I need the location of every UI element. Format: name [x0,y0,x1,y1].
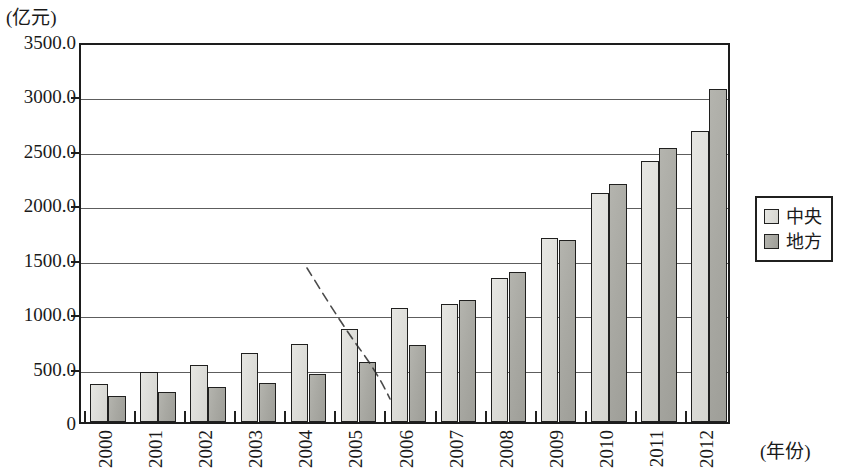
y-tick-label: 1000.0 [24,304,76,326]
legend: 中央 地方 [755,196,833,262]
x-axis-title: (年份) [760,436,811,463]
legend-item-local: 地方 [764,229,822,254]
bar-2001-local [158,392,176,422]
bar-2009-central [541,238,559,422]
x-tick-mark [334,411,336,422]
bar-2006-local [409,345,427,422]
x-tick-label-2009: 2009 [546,430,568,468]
x-tick-label-2004: 2004 [295,430,317,468]
bar-2009-local [559,240,577,422]
x-tick-mark [284,411,286,422]
x-tick-label-2000: 2000 [95,430,117,468]
bar-2011-local [659,148,677,422]
x-tick-mark [384,411,386,422]
y-tick-label: 3500.0 [24,32,76,54]
x-tick-label-2003: 2003 [245,430,267,468]
legend-swatch-local-icon [764,234,779,249]
legend-swatch-central-icon [764,209,779,224]
x-tick-mark [635,411,637,422]
x-tick-label-2001: 2001 [145,430,167,468]
bar-2003-local [259,383,277,422]
legend-label-local: 地方 [786,233,822,251]
bar-chart: (亿元) 0500.01000.01500.02000.02500.03000.… [0,0,845,476]
x-tick-mark [84,411,86,422]
bars-layer [81,45,728,422]
x-tick-label-2008: 2008 [496,430,518,468]
x-tick-label-2011: 2011 [646,430,668,467]
x-tick-mark [685,411,687,422]
bar-2001-central [140,372,158,422]
bar-2007-central [441,304,459,422]
x-tick-mark [485,411,487,422]
bar-2008-central [491,278,509,422]
x-tick-mark [585,411,587,422]
bar-2008-local [509,272,527,422]
y-axis-unit-label: (亿元) [6,2,57,29]
x-tick-mark [184,411,186,422]
bar-2005-local [359,362,377,422]
bar-2011-central [641,161,659,422]
bar-2004-central [291,344,309,422]
y-tick-label: 2500.0 [24,141,76,163]
y-tick-label: 1500.0 [24,250,76,272]
x-tick-mark [435,411,437,422]
x-tick-label-2010: 2010 [596,430,618,468]
bar-2002-local [208,387,226,422]
x-tick-mark [535,411,537,422]
bar-2003-central [241,353,259,422]
bar-2010-central [591,193,609,422]
bar-2005-central [341,329,359,422]
x-tick-mark [134,411,136,422]
bar-2010-local [609,184,627,422]
x-tick-label-2002: 2002 [195,430,217,468]
x-tick-label-2012: 2012 [696,430,718,468]
bar-2007-local [459,300,477,422]
bar-2000-local [108,396,126,422]
bar-2002-central [190,365,208,422]
bar-2012-central [691,131,709,422]
x-tick-label-2006: 2006 [396,430,418,468]
x-tick-mark [728,411,730,422]
bar-2004-local [309,374,327,422]
bar-2000-central [90,384,108,422]
x-tick-label-2007: 2007 [446,430,468,468]
y-tick-label: 500.0 [33,359,76,381]
legend-label-central: 中央 [786,208,822,226]
bar-2012-local [709,89,727,422]
y-tick-label: 0 [67,413,77,435]
y-tick-label: 2000.0 [24,195,76,217]
x-tick-label-2005: 2005 [345,430,367,468]
bar-2006-central [391,308,409,422]
y-tick-label: 3000.0 [24,86,76,108]
x-tick-mark [234,411,236,422]
legend-item-central: 中央 [764,204,822,229]
plot-area [79,43,730,424]
